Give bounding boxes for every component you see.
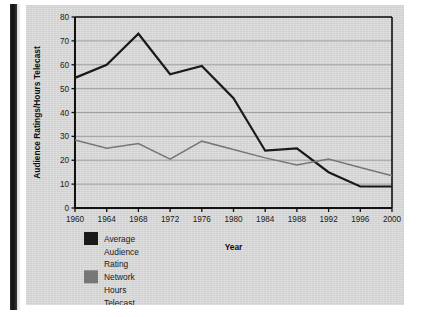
y-tick-label: 80	[60, 13, 70, 22]
legend-label-line: Rating	[104, 259, 129, 269]
screenshot-page: 01020304050607080 1960196419681972197619…	[0, 0, 430, 317]
x-tick-label: 2000	[383, 215, 402, 224]
x-tick-label: 1980	[224, 215, 243, 224]
x-tick-label: 1960	[66, 215, 85, 224]
x-tick-label: 1968	[129, 215, 148, 224]
chart-legend: AverageAudienceRatingNetworkHoursTelecas…	[84, 232, 139, 305]
legend-swatch-average-audience-rating	[84, 232, 98, 245]
page-binding-shadow	[17, 4, 21, 310]
legend-label-line: Telecast	[104, 298, 135, 306]
x-axis-title: Year	[225, 242, 243, 252]
y-tick-label: 40	[60, 109, 70, 118]
y-tick-label: 0	[64, 204, 69, 213]
legend-label-line: Average	[104, 234, 135, 244]
x-axis-ticks: 1960196419681972197619801984198819921996…	[66, 208, 402, 224]
chart-figure: 01020304050607080 1960196419681972197619…	[26, 5, 404, 305]
y-tick-label: 20	[60, 156, 70, 165]
gridlines-group	[75, 17, 392, 184]
x-tick-label: 1988	[288, 215, 307, 224]
legend-swatch-network-hours-telecast	[84, 270, 98, 283]
legend-label-line: Hours	[104, 285, 126, 295]
y-tick-label: 10	[60, 180, 70, 189]
line-chart: 01020304050607080 1960196419681972197619…	[26, 5, 404, 305]
data-series-group	[75, 34, 392, 187]
legend-label-line: Audience	[104, 247, 139, 257]
x-tick-label: 1972	[161, 215, 180, 224]
x-tick-label: 1984	[256, 215, 275, 224]
y-tick-label: 30	[60, 132, 70, 141]
x-tick-label: 1976	[193, 215, 212, 224]
x-tick-label: 1992	[319, 215, 338, 224]
y-axis-title: Audience Ratings/Hours Telecast	[32, 46, 42, 179]
x-tick-label: 1996	[351, 215, 370, 224]
x-tick-label: 1964	[98, 215, 117, 224]
page-binding-scan-artifact	[10, 4, 17, 310]
y-axis-ticks: 01020304050607080	[60, 13, 75, 213]
y-tick-label: 60	[60, 61, 70, 70]
series-line-network-hours-telecast	[75, 140, 392, 176]
y-tick-label: 70	[60, 37, 70, 46]
legend-label-line: Network	[104, 272, 136, 282]
y-tick-label: 50	[60, 85, 70, 94]
